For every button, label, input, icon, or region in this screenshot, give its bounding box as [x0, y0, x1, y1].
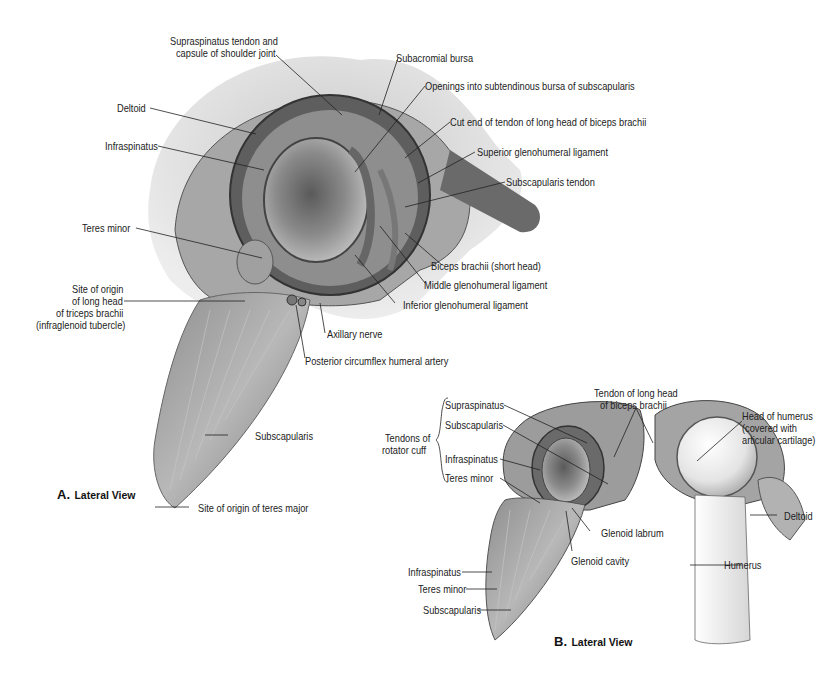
label-supraspinatus-b: Supraspinatus: [445, 399, 504, 412]
label-humerus: Humerus: [724, 559, 761, 572]
label-openings-subtendinous-bursa: Openings into subtendinous bursa of subs…: [425, 80, 635, 93]
label-axillary-nerve: Axillary nerve: [327, 328, 382, 341]
label-middle-glenohumeral-ligament: Middle glenohumeral ligament: [424, 279, 547, 292]
label-infraspinatus-b-low: Infraspinatus: [408, 566, 461, 579]
label-cut-end-tendon-biceps: Cut end of tendon of long head of biceps…: [450, 116, 646, 129]
label-biceps-short-head: Biceps brachii (short head): [431, 260, 541, 273]
label-site-origin-line1: Site of origin: [72, 283, 123, 296]
label-supraspinatus-tendon-line2: capsule of shoulder joint: [176, 47, 276, 60]
label-subscapularis-a: Subscapularis: [255, 430, 313, 443]
label-subacromial-bursa: Subacromial bursa: [396, 52, 473, 65]
label-head-humerus-line3: articular cartilage): [742, 434, 815, 447]
caption-letter-a: A.: [57, 487, 70, 502]
label-tendons-rotator-cuff-line2: rotator cuff: [382, 444, 426, 457]
label-inferior-glenohumeral-ligament: Inferior glenohumeral ligament: [403, 299, 528, 312]
label-deltoid-a: Deltoid: [117, 102, 146, 115]
caption-figure-b: B. Lateral View: [554, 632, 633, 650]
label-teres-minor-b: Teres minor: [445, 472, 493, 485]
label-glenoid-labrum: Glenoid labrum: [601, 527, 664, 540]
label-teres-minor-b-low: Teres minor: [418, 583, 466, 596]
label-infraspinatus-a: Infraspinatus: [105, 140, 158, 153]
label-tendons-rotator-cuff-line1: Tendons of: [385, 432, 430, 445]
label-subscapularis-b: Subscapularis: [445, 419, 503, 432]
label-posterior-circumflex-artery: Posterior circumflex humeral artery: [305, 355, 448, 368]
label-infraspinatus-b: Infraspinatus: [445, 453, 498, 466]
label-supraspinatus-tendon-line1: Supraspinatus tendon and: [170, 35, 278, 48]
label-head-humerus-line1: Head of humerus: [742, 410, 813, 423]
label-glenoid-cavity: Glenoid cavity: [571, 555, 629, 568]
label-site-origin-line3: of triceps brachii: [56, 307, 123, 320]
anatomy-figure: Supraspinatus tendon and capsule of shou…: [0, 0, 832, 681]
label-subscapularis-tendon: Subscapularis tendon: [506, 176, 595, 189]
caption-letter-b: B.: [554, 634, 567, 649]
caption-figure-a: A. Lateral View: [57, 485, 136, 503]
label-tendon-long-head-line1: Tendon of long head: [594, 387, 678, 400]
caption-view-a: Lateral View: [74, 489, 135, 501]
label-site-origin-line4: (infraglenoid tubercle): [36, 319, 125, 332]
label-subscapularis-b-low: Subscapularis: [423, 604, 481, 617]
label-site-origin-line2: of long head: [72, 295, 123, 308]
label-head-humerus-line2: (covered with: [742, 422, 797, 435]
label-tendon-long-head-line2: of biceps brachii: [600, 399, 667, 412]
caption-view-b: Lateral View: [571, 636, 632, 648]
label-superior-glenohumeral-ligament: Superior glenohumeral ligament: [477, 146, 608, 159]
label-deltoid-b: Deltoid: [784, 510, 813, 523]
label-teres-minor-a: Teres minor: [82, 222, 130, 235]
label-teres-major-origin: Site of origin of teres major: [198, 502, 308, 515]
